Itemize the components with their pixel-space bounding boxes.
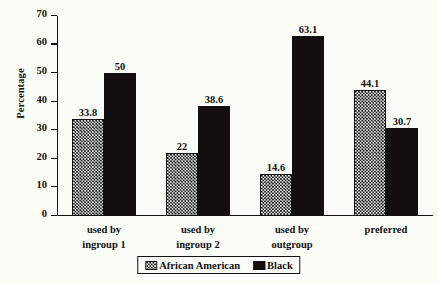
y-tick-label: 70 bbox=[37, 8, 48, 19]
x-category-label: used byingroup 1 bbox=[57, 222, 151, 252]
x-category-label-line: used by bbox=[245, 222, 339, 237]
legend-item[interactable]: African American bbox=[145, 260, 240, 271]
x-category-label-line: preferred bbox=[339, 222, 433, 237]
y-tick-label: 0 bbox=[42, 208, 47, 219]
x-category-label-line: ingroup 2 bbox=[151, 237, 245, 252]
bar: 63.1 bbox=[292, 36, 324, 216]
x-category-label: used byoutgroup bbox=[245, 222, 339, 252]
legend-label: African American bbox=[159, 260, 240, 271]
legend-swatch-icon bbox=[145, 261, 157, 270]
bar-chart: Percentage 010203040506070 33.8502238.61… bbox=[0, 0, 438, 285]
bar-pair: 44.130.7 bbox=[354, 16, 418, 216]
bar-group: 14.663.1 bbox=[245, 16, 339, 216]
x-category-label-line: used by bbox=[57, 222, 151, 237]
x-category-label: preferred bbox=[339, 222, 433, 237]
legend-item[interactable]: Black bbox=[253, 260, 293, 271]
bar: 38.6 bbox=[198, 106, 230, 216]
bar-value-label: 33.8 bbox=[79, 107, 97, 118]
bar-group: 2238.6 bbox=[151, 16, 245, 216]
bar-value-label: 38.6 bbox=[205, 94, 223, 105]
legend-label: Black bbox=[267, 260, 293, 271]
bar-value-label: 30.7 bbox=[393, 116, 411, 127]
bar: 30.7 bbox=[386, 128, 418, 216]
x-category-label-line: used by bbox=[151, 222, 245, 237]
bar-value-label: 63.1 bbox=[299, 24, 317, 35]
y-tick-label: 60 bbox=[37, 36, 48, 47]
y-tick-label: 30 bbox=[37, 122, 48, 133]
chart-legend: African AmericanBlack bbox=[137, 256, 300, 274]
plot-area: 010203040506070 33.8502238.614.663.144.1… bbox=[57, 16, 433, 216]
bar: 50 bbox=[104, 73, 136, 216]
bar-groups: 33.8502238.614.663.144.130.7 bbox=[57, 16, 433, 216]
bar-value-label: 22 bbox=[177, 141, 188, 152]
bar-group: 44.130.7 bbox=[339, 16, 433, 216]
bar-pair: 14.663.1 bbox=[260, 16, 324, 216]
x-category-label: used byingroup 2 bbox=[151, 222, 245, 252]
bar: 44.1 bbox=[354, 90, 386, 216]
x-category-label-line: outgroup bbox=[245, 237, 339, 252]
y-tick-label: 20 bbox=[37, 151, 48, 162]
x-axis-category-labels: used byingroup 1used byingroup 2used byo… bbox=[57, 222, 433, 256]
x-category-label-line: ingroup 1 bbox=[57, 237, 151, 252]
bar-value-label: 50 bbox=[115, 61, 126, 72]
bar-pair: 2238.6 bbox=[166, 16, 230, 216]
bar: 33.8 bbox=[72, 119, 104, 216]
y-axis-title: Percentage bbox=[15, 44, 26, 144]
bar: 22 bbox=[166, 153, 198, 216]
y-tick-label: 10 bbox=[37, 179, 48, 190]
y-tick-label: 50 bbox=[37, 65, 48, 76]
bar-value-label: 44.1 bbox=[361, 78, 379, 89]
bar-group: 33.850 bbox=[57, 16, 151, 216]
bar-value-label: 14.6 bbox=[267, 162, 285, 173]
y-tick-label: 40 bbox=[37, 94, 48, 105]
bar-pair: 33.850 bbox=[72, 16, 136, 216]
bar: 14.6 bbox=[260, 174, 292, 216]
legend-swatch-icon bbox=[253, 261, 265, 270]
